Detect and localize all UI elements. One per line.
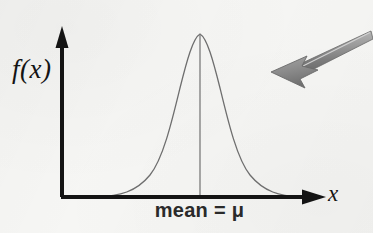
y-axis-label: f(x) <box>12 56 51 83</box>
y-axis-arrowhead-icon <box>56 26 69 48</box>
bell-curve-path <box>96 34 300 197</box>
pointer-arrow-icon <box>271 31 373 88</box>
mean-caption-text: mean = μ <box>155 199 245 221</box>
mean-caption: mean = μ <box>0 200 373 220</box>
normal-distribution-figure: f(x) x mean = μ <box>0 0 373 233</box>
